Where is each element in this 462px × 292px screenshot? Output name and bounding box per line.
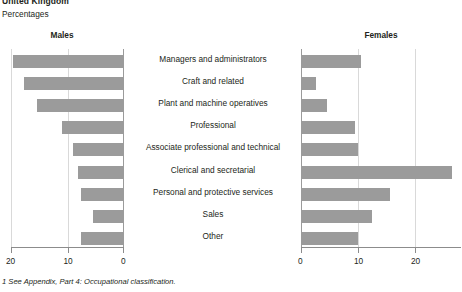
bar bbox=[81, 188, 124, 201]
bar bbox=[73, 143, 124, 156]
bar-row bbox=[11, 162, 124, 184]
bar-row bbox=[301, 228, 461, 250]
bar bbox=[301, 188, 390, 201]
axis-tick-label: 0 bbox=[121, 256, 126, 266]
bar bbox=[13, 55, 124, 68]
bar-row bbox=[11, 184, 124, 206]
females-plot-area bbox=[301, 49, 461, 254]
bar-row bbox=[11, 206, 124, 228]
category-label: Sales bbox=[126, 209, 300, 219]
bar-row bbox=[301, 51, 461, 73]
axis-tick-label: 10 bbox=[64, 256, 73, 266]
bar bbox=[24, 77, 124, 90]
bar-row bbox=[301, 139, 461, 161]
females-panel-heading: Females bbox=[301, 30, 461, 40]
axis-tick-label: 20 bbox=[411, 256, 420, 266]
males-plot-area bbox=[11, 49, 124, 254]
bar bbox=[301, 55, 361, 68]
bar-row bbox=[11, 95, 124, 117]
bar bbox=[62, 121, 124, 134]
bar-row bbox=[301, 95, 461, 117]
females-tick-labels: 01020 bbox=[290, 256, 462, 268]
bar bbox=[301, 121, 355, 134]
bar-row bbox=[11, 117, 124, 139]
bar-row bbox=[11, 139, 124, 161]
units-subtitle: Percentages bbox=[2, 9, 49, 19]
bar bbox=[301, 166, 452, 179]
axis-tick-label: 0 bbox=[298, 256, 303, 266]
bar bbox=[78, 166, 124, 179]
axis-tick-label: 20 bbox=[6, 256, 15, 266]
axis-tick-label: 10 bbox=[354, 256, 363, 266]
bar-row bbox=[11, 73, 124, 95]
bar bbox=[93, 210, 124, 223]
footnote: 1 See Appendix, Part 4: Occupational cla… bbox=[2, 277, 176, 286]
bar bbox=[301, 143, 358, 156]
bar-row bbox=[11, 228, 124, 250]
bar-row bbox=[301, 184, 461, 206]
bar bbox=[301, 99, 327, 112]
bar bbox=[301, 210, 372, 223]
category-label: Clerical and secretarial bbox=[126, 165, 300, 175]
bar-row bbox=[301, 206, 461, 228]
bar-row bbox=[11, 51, 124, 73]
bar bbox=[301, 232, 358, 245]
category-label: Professional bbox=[126, 120, 300, 130]
category-label: Craft and related bbox=[126, 76, 300, 86]
category-label: Plant and machine operatives bbox=[126, 98, 300, 108]
category-label: Personal and protective services bbox=[126, 187, 300, 197]
category-label: Other bbox=[126, 231, 300, 241]
category-label-column: Managers and administratorsCraft and rel… bbox=[126, 49, 300, 254]
bar-row bbox=[301, 162, 461, 184]
bar bbox=[301, 77, 316, 90]
bar-row bbox=[301, 73, 461, 95]
region-title: United Kingdom bbox=[2, 0, 69, 6]
males-tick-labels: 20100 bbox=[0, 256, 140, 268]
category-label: Managers and administrators bbox=[126, 54, 300, 64]
bar bbox=[37, 99, 124, 112]
category-label: Associate professional and technical bbox=[126, 142, 300, 152]
bar bbox=[81, 232, 124, 245]
bar-row bbox=[301, 117, 461, 139]
males-panel-heading: Males bbox=[0, 30, 124, 40]
